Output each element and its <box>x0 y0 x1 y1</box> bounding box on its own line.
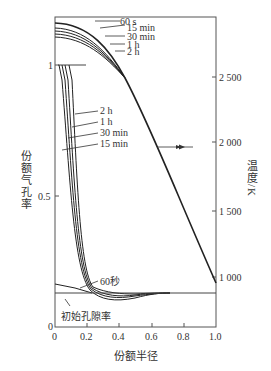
x-tick-10: 1.0 <box>209 331 222 342</box>
right-ticks <box>212 77 216 277</box>
label-2h-top: 2 h <box>127 46 140 57</box>
y-axis-left-label: 份额气孔率 <box>18 150 34 210</box>
left-ticks <box>55 65 59 196</box>
label-initial-porosity: 初始孔隙率 <box>61 310 111 322</box>
temperature-curves <box>55 23 216 283</box>
x-tick-04: 0.4 <box>112 331 125 342</box>
y-right-2000: 2 000 <box>219 137 242 148</box>
label-1h-mid: 1 h <box>100 116 113 127</box>
y-left-05: 0.5 <box>38 191 51 202</box>
y-left-1: 1 <box>48 60 53 71</box>
label-15min-mid: 15 min <box>100 138 128 149</box>
label-2h-mid: 2 h <box>100 105 113 116</box>
y-right-1500: 1 500 <box>219 206 242 217</box>
plot-frame <box>55 17 216 327</box>
arrow-head-icon <box>179 145 185 150</box>
x-axis-label: 份额半径 <box>114 347 158 363</box>
x-ticks <box>87 323 184 327</box>
x-tick-06: 0.6 <box>145 331 158 342</box>
x-tick-08: 0.8 <box>177 331 190 342</box>
x-tick-0: 0 <box>52 331 57 342</box>
y-right-2500: 2 500 <box>219 72 242 83</box>
y-axis-right-label: 温度/K <box>244 160 260 197</box>
label-30min-mid: 30 min <box>100 127 128 138</box>
chart-canvas: 60 s 15 min 30 min 1 h 2 h 2 h 1 h 30 mi… <box>0 0 271 371</box>
y-right-1000: 1 000 <box>219 272 242 283</box>
x-tick-02: 0.2 <box>80 331 93 342</box>
porosity-curves <box>55 65 170 300</box>
label-60sec: 60秒 <box>100 275 120 287</box>
